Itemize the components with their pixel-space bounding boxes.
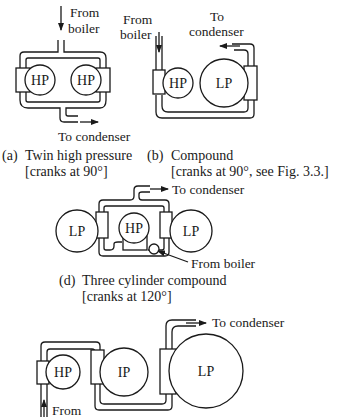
panel-a-cylinder-hp-2-label: HP xyxy=(77,73,95,88)
panel-e-outlet-label: To condenser xyxy=(212,315,285,330)
panel-d-exhaust-pipe-inner xyxy=(104,206,164,212)
panel-b-outlet-label-line2: condenser xyxy=(189,24,244,39)
captions-a-b: (a) Twin high pressure [cranks at 90°] (… xyxy=(2,148,329,179)
panel-b-cylinder-lp-label: LP xyxy=(216,76,233,91)
panel-e-triple-expansion: HP IP LP To condenser From xyxy=(37,315,285,417)
panel-b-caption-letter: (b) xyxy=(147,148,164,164)
panel-d-cylinder-hp-label: HP xyxy=(125,221,143,236)
steam-engine-arrangements-diagram: HP HP From boiler To condenser HP LP Fro… xyxy=(0,0,344,417)
panel-a-inlet-label-line2: boiler xyxy=(68,21,100,36)
panel-b-inlet-label-line2: boiler xyxy=(120,27,152,42)
panel-e-cylinder-lp-label: LP xyxy=(198,364,215,379)
panel-d-three-cylinder-compound: LP HP LP To condenser From boiler (d) Th… xyxy=(56,182,256,304)
panel-e-cylinder-ip-label: IP xyxy=(118,365,131,380)
panel-d-caption-letter: (d) xyxy=(59,273,76,289)
panel-a-outlet-label: To condenser xyxy=(58,129,131,144)
panel-b-compound: HP LP From boiler To condenser xyxy=(120,9,257,118)
panel-a-caption-note: [cranks at 90°] xyxy=(25,164,108,179)
panel-a-inlet-label-line1: From xyxy=(70,5,100,20)
panel-d-exhaust-pipe xyxy=(99,186,169,212)
panel-d-caption-title: Three cylinder compound xyxy=(82,273,227,288)
panel-b-outlet-label-line1: To xyxy=(210,9,224,24)
panel-d-inlet-label: From boiler xyxy=(191,256,256,271)
panel-a-caption-letter: (a) xyxy=(2,148,18,164)
panel-d-outlet-label: To condenser xyxy=(172,182,245,197)
panel-d-caption-note: [cranks at 120°] xyxy=(82,289,172,304)
panel-b-caption-title: Compound xyxy=(171,148,233,163)
panel-b-caption-note: [cranks at 90°, see Fig. 3.3.] xyxy=(171,164,329,179)
panel-e-cylinder-hp-label: HP xyxy=(54,365,72,380)
panel-b-cylinder-hp-label: HP xyxy=(169,76,187,91)
panel-a-caption-title: Twin high pressure xyxy=(25,148,132,163)
panel-b-inlet-label-line1: From xyxy=(123,12,153,27)
panel-e-inlet-label: From xyxy=(52,403,82,417)
panel-a-twin-high-pressure: HP HP From boiler To condenser xyxy=(16,5,131,144)
panel-d-boiler-inlet-valve xyxy=(149,244,159,254)
panel-d-cylinder-lp-left-label: LP xyxy=(69,224,86,239)
panel-d-cylinder-lp-right-label: LP xyxy=(183,224,200,239)
panel-a-cylinder-hp-1-label: HP xyxy=(31,73,49,88)
